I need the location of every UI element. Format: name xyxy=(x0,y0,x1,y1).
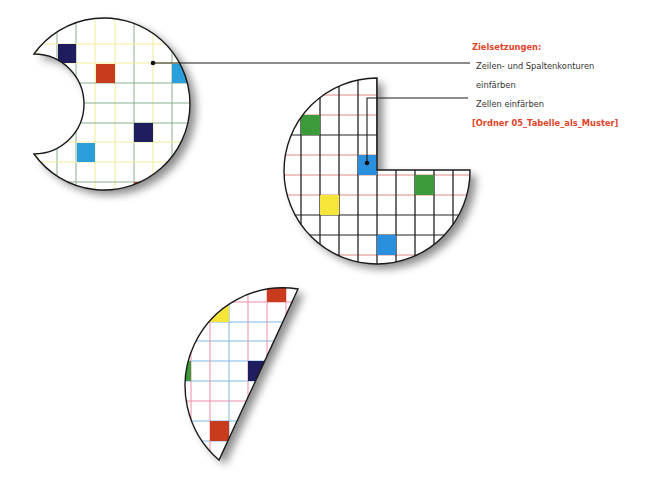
cell-orange xyxy=(191,143,210,162)
cell-navy xyxy=(58,44,76,63)
annotation-heading: Zielsetzungen: xyxy=(472,38,652,57)
cell-light-blue xyxy=(77,143,95,162)
cell-navy xyxy=(134,123,153,142)
cell-yellow xyxy=(320,195,339,215)
goal-outlines-line1: Zeilen- und Spaltenkonturen xyxy=(472,57,652,76)
cell-orange xyxy=(134,182,153,201)
goal-cells: Zellen einfärben xyxy=(472,95,652,114)
cell-orange xyxy=(210,421,229,441)
cell-orange xyxy=(267,284,286,302)
shape-2-pacman xyxy=(270,70,480,280)
cell-green xyxy=(301,115,320,135)
cell-orange xyxy=(96,64,115,83)
folder-reference: [Ordner 05_Tabelle_als_Muster] xyxy=(472,114,652,133)
shape-3-half-disc xyxy=(140,270,310,470)
shape-1-crescent xyxy=(20,18,220,220)
cell-light-blue xyxy=(377,235,396,255)
cell-green xyxy=(415,175,434,195)
goal-outlines-line2: einfärben xyxy=(472,76,652,95)
connector-cells xyxy=(365,98,468,165)
connector-outlines xyxy=(151,61,470,66)
annotation-block: Zielsetzungen: Zeilen- und Spaltenkontur… xyxy=(472,38,652,133)
